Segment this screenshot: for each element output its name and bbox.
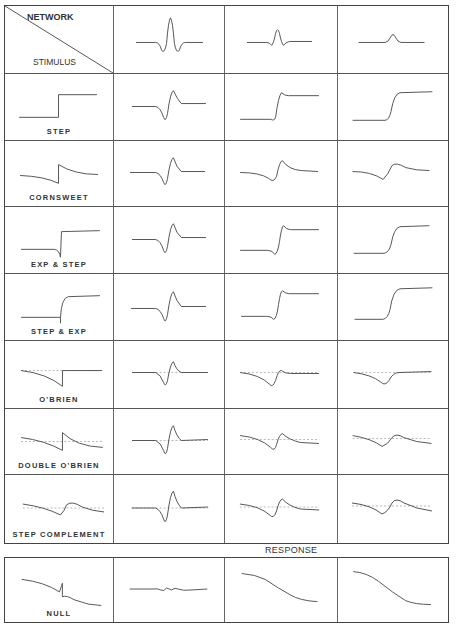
response-plot	[338, 74, 448, 140]
response-cell	[338, 74, 448, 140]
network-1-kernel	[114, 6, 225, 73]
response-plot	[114, 341, 224, 408]
response-cell	[338, 558, 448, 622]
response-plot	[114, 558, 224, 622]
response-cell	[114, 558, 225, 622]
response-axis-label: RESPONSE	[265, 545, 317, 555]
stimulus-row-exp-and-step: EXP & STEP	[5, 207, 448, 274]
network-header-row: NETWORK STIMULUS	[5, 6, 448, 74]
response-cell	[338, 475, 448, 543]
response-plot	[114, 207, 224, 273]
stimulus-label: O'BRIEN	[5, 395, 113, 404]
stimulus-row-step: STEP	[5, 74, 448, 141]
response-plot	[338, 207, 448, 273]
response-plot	[225, 409, 337, 474]
response-cell	[114, 341, 225, 408]
network-3-kernel	[338, 6, 448, 73]
network-header: NETWORK	[27, 12, 74, 22]
response-plot	[225, 141, 337, 206]
stimulus-cell: NULL	[5, 558, 114, 622]
response-plot	[225, 207, 337, 273]
stimulus-cell: DOUBLE O'BRIEN	[5, 409, 114, 474]
response-cell	[225, 341, 338, 408]
response-plot	[338, 409, 448, 474]
response-cell	[114, 475, 225, 543]
response-plot	[338, 475, 448, 543]
response-plot	[225, 475, 337, 543]
response-cell	[114, 74, 225, 140]
response-cell	[338, 141, 448, 206]
response-cell	[114, 141, 225, 206]
response-cell	[225, 475, 338, 543]
stimulus-label: CORNSWEET	[5, 193, 113, 202]
response-plot	[114, 274, 224, 340]
response-cell	[225, 207, 338, 273]
stimulus-label: DOUBLE O'BRIEN	[5, 461, 113, 470]
response-plot	[338, 558, 448, 622]
response-cell	[225, 409, 338, 474]
response-cell	[338, 409, 448, 474]
kernel-gaussian-plot	[338, 6, 448, 73]
stimulus-label: STEP	[5, 127, 113, 136]
response-plot	[114, 74, 224, 140]
stimulus-row-double-obrien: DOUBLE O'BRIEN	[5, 409, 448, 475]
stimulus-header: STIMULUS	[33, 57, 76, 67]
stimulus-label: EXP & STEP	[5, 260, 113, 269]
stimulus-cell: EXP & STEP	[5, 207, 114, 273]
response-plot	[338, 141, 448, 206]
response-cell	[338, 274, 448, 340]
response-plot	[114, 475, 224, 543]
response-plot	[114, 141, 224, 206]
stimulus-label: NULL	[5, 609, 113, 618]
stimulus-cell: STEP & EXP	[5, 274, 114, 340]
response-cell	[338, 207, 448, 273]
stimulus-cell: O'BRIEN	[5, 341, 114, 408]
stimulus-row-step-complement: STEP COMPLEMENT	[5, 475, 448, 543]
response-table: NETWORK STIMULUS STEP CORN	[4, 5, 449, 544]
response-cell	[114, 274, 225, 340]
response-cell	[225, 141, 338, 206]
response-cell	[225, 74, 338, 140]
stimulus-label: STEP & EXP	[5, 327, 113, 336]
response-plot	[225, 74, 337, 140]
response-cell	[114, 207, 225, 273]
response-plot	[114, 409, 224, 474]
kernel-narrow-dog-plot	[114, 6, 224, 73]
stimulus-row-step-and-exp: STEP & EXP	[5, 274, 448, 341]
response-plot	[225, 558, 337, 622]
response-plot	[225, 341, 337, 408]
stimulus-cell: STEP	[5, 74, 114, 140]
stimulus-cell: CORNSWEET	[5, 141, 114, 206]
response-plot	[338, 341, 448, 408]
stimulus-cell: STEP COMPLEMENT	[5, 475, 114, 543]
response-plot	[225, 274, 337, 340]
corner-header-cell: NETWORK STIMULUS	[5, 6, 114, 73]
null-row: NULL	[4, 557, 449, 623]
response-plot	[338, 274, 448, 340]
response-cell	[338, 341, 448, 408]
kernel-medium-dog-plot	[225, 6, 337, 73]
response-cell	[114, 409, 225, 474]
stimulus-row-obrien: O'BRIEN	[5, 341, 448, 409]
network-2-kernel	[225, 6, 338, 73]
stimulus-label: STEP COMPLEMENT	[5, 530, 113, 539]
stimulus-row-cornsweet: CORNSWEET	[5, 141, 448, 207]
response-cell	[225, 274, 338, 340]
response-cell	[225, 558, 338, 622]
